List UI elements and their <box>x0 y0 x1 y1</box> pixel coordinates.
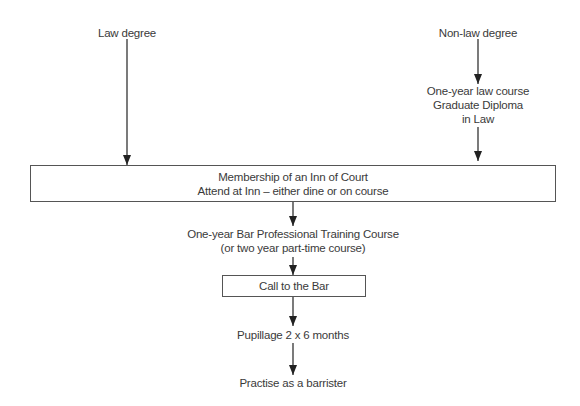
node-inn-membership-box: Membership of an Inn of Court Attend at … <box>30 165 556 202</box>
node-non-law-degree: Non-law degree <box>439 26 517 40</box>
node-call-to-bar-box: Call to the Bar <box>222 275 366 297</box>
gdl-line-3: in Law <box>427 112 529 126</box>
node-practise: Practise as a barrister <box>239 376 346 390</box>
gdl-line-2: Graduate Diploma <box>427 98 529 112</box>
inn-line-1: Membership of an Inn of Court <box>31 170 555 184</box>
inn-line-2: Attend at Inn – either dine or on course <box>31 184 555 198</box>
gdl-line-1: One-year law course <box>427 84 529 98</box>
connector-arrows <box>0 0 580 406</box>
bptc-line-1: One-year Bar Professional Training Cours… <box>187 227 399 241</box>
node-law-degree: Law degree <box>98 26 156 40</box>
bptc-line-2: (or two year part-time course) <box>187 241 399 255</box>
node-graduate-diploma: One-year law course Graduate Diploma in … <box>427 84 529 126</box>
node-bptc: One-year Bar Professional Training Cours… <box>187 227 399 255</box>
call-to-bar-label: Call to the Bar <box>223 279 365 293</box>
node-pupillage: Pupillage 2 x 6 months <box>237 328 349 342</box>
